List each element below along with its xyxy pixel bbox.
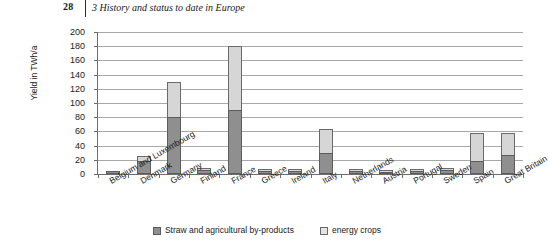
y-axis-tick <box>94 103 98 104</box>
gridline <box>98 75 523 76</box>
legend-label: Straw and agricultural by-products <box>165 226 294 235</box>
y-axis-tick-label: 120 <box>70 85 85 94</box>
y-axis-tick <box>94 89 98 90</box>
y-axis-tick <box>94 75 98 76</box>
y-axis-tick <box>94 32 98 33</box>
y-axis-tick-label: 100 <box>70 99 85 108</box>
y-axis-tick <box>94 131 98 132</box>
gridline <box>98 103 523 104</box>
chart-legend: Straw and agricultural by-productsenergy… <box>0 226 534 246</box>
page-number: 28 <box>63 1 73 12</box>
y-axis-tick-label: 180 <box>70 42 85 51</box>
bar-segment-energy-crops[interactable] <box>470 133 484 161</box>
y-axis-tick <box>94 160 98 161</box>
legend-item-1[interactable]: Straw and agricultural by-products <box>153 226 294 235</box>
x-axis-tick-labels: Belgium and LuxembourgDenmarkGermanyFinl… <box>97 178 534 228</box>
y-axis-tick <box>94 146 98 147</box>
legend-swatch-icon <box>320 227 328 235</box>
header-divider <box>85 0 86 17</box>
bar-segment-energy-crops[interactable] <box>228 46 242 110</box>
y-axis-tick-label: 80 <box>75 113 85 122</box>
y-axis-tick <box>94 117 98 118</box>
bar-france[interactable] <box>228 46 242 174</box>
gridline <box>98 160 523 161</box>
legend-swatch-icon <box>153 227 161 235</box>
chapter-title: 3 History and status to date in Europe <box>92 2 245 13</box>
page-header: 28 3 History and status to date in Europ… <box>0 0 534 20</box>
y-axis-tick-label: 40 <box>75 142 85 151</box>
gridline <box>98 60 523 61</box>
gridline <box>98 117 523 118</box>
bar-great-britain[interactable] <box>501 133 515 174</box>
bar-segment-energy-crops[interactable] <box>501 133 515 155</box>
bar-segment-energy-crops[interactable] <box>167 82 181 118</box>
bar-segment-straw-and-agricultural-by-products[interactable] <box>228 110 242 174</box>
y-axis-tick <box>94 60 98 61</box>
gridline <box>98 32 523 33</box>
y-axis-tick-label: 0 <box>80 170 85 179</box>
y-axis-tick-labels: 020406080100120140160180200 <box>0 33 93 178</box>
y-axis-tick-label: 200 <box>70 28 85 37</box>
bar-segment-energy-crops[interactable] <box>319 129 333 152</box>
y-axis-tick-label: 20 <box>75 156 85 165</box>
bar-spain[interactable] <box>470 133 484 174</box>
y-axis-tick-label: 160 <box>70 56 85 65</box>
y-axis-tick-label: 140 <box>70 71 85 80</box>
y-axis-tick-label: 60 <box>75 127 85 136</box>
bar-italy[interactable] <box>319 129 333 174</box>
legend-item-2[interactable]: energy crops <box>320 226 381 235</box>
legend-label: energy crops <box>332 226 381 235</box>
gridline <box>98 89 523 90</box>
y-axis-tick <box>94 46 98 47</box>
gridline <box>98 131 523 132</box>
bar-chart: Yield in TWh/a 0204060801001201401601802… <box>0 20 534 246</box>
gridline <box>98 46 523 47</box>
